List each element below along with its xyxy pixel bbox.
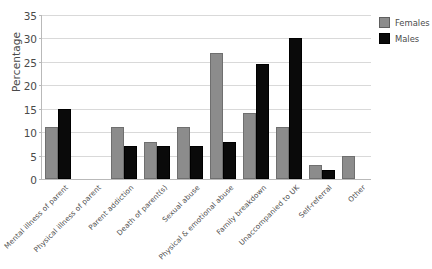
y-tick-label: 15 xyxy=(24,104,37,116)
bar-females[interactable] xyxy=(177,127,190,179)
y-tick-label: 0 xyxy=(30,174,37,186)
bar-group xyxy=(272,16,305,179)
legend-label-females: Females xyxy=(395,18,430,28)
bar-males[interactable] xyxy=(58,109,71,179)
legend: Females Males xyxy=(379,17,430,44)
bar-females[interactable] xyxy=(210,53,223,180)
bar-males[interactable] xyxy=(223,142,236,179)
bar-females[interactable] xyxy=(45,127,58,179)
bar-males[interactable] xyxy=(322,170,335,179)
bar-females[interactable] xyxy=(342,156,355,179)
bar-group xyxy=(239,16,272,179)
bar-males[interactable] xyxy=(157,146,170,179)
x-tick-label: Other xyxy=(346,183,367,204)
x-tick-label: Mental illness of parent xyxy=(2,183,70,251)
bar-group xyxy=(42,16,75,179)
bar-group xyxy=(75,16,108,179)
bar-females[interactable] xyxy=(276,127,289,179)
y-axis-title: Percentage xyxy=(10,2,22,122)
legend-label-males: Males xyxy=(395,34,419,44)
y-tick-label: 30 xyxy=(24,33,37,45)
y-tick-label: 20 xyxy=(24,80,37,92)
males-swatch-icon xyxy=(379,33,390,44)
females-swatch-icon xyxy=(379,17,390,28)
plot-area: 05101520253035 xyxy=(41,16,371,180)
bar-females[interactable] xyxy=(111,127,124,179)
y-tick-label: 25 xyxy=(24,57,37,69)
bar-group xyxy=(141,16,174,179)
legend-item-males[interactable]: Males xyxy=(379,33,430,44)
bar-group xyxy=(338,16,371,179)
bar-females[interactable] xyxy=(144,142,157,179)
x-label-slot: Unaccompanied to UK xyxy=(272,181,305,269)
y-tick-label: 10 xyxy=(24,127,37,139)
bar-males[interactable] xyxy=(256,64,269,179)
bar-males[interactable] xyxy=(190,146,203,179)
bar-males[interactable] xyxy=(124,146,137,179)
y-tick-mark xyxy=(39,179,42,180)
x-axis-labels: Mental illness of parentPhysical illness… xyxy=(41,181,371,269)
bars-layer xyxy=(42,16,371,179)
bar-males[interactable] xyxy=(289,38,302,179)
legend-item-females[interactable]: Females xyxy=(379,17,430,28)
x-label-slot: Self-referral xyxy=(305,181,338,269)
bar-group xyxy=(174,16,207,179)
x-label-slot: Other xyxy=(338,181,371,269)
bar-chart: Percentage 05101520253035 Mental illness… xyxy=(0,0,432,269)
bar-females[interactable] xyxy=(243,113,256,179)
bar-group xyxy=(108,16,141,179)
y-tick-label: 5 xyxy=(30,151,37,163)
gridline xyxy=(42,179,371,180)
bar-females[interactable] xyxy=(309,165,322,179)
bar-group xyxy=(305,16,338,179)
y-tick-label: 35 xyxy=(24,10,37,22)
bar-group xyxy=(207,16,240,179)
